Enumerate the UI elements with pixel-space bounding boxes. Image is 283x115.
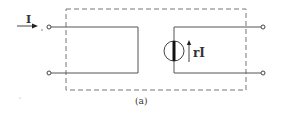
source-label: rI bbox=[193, 46, 205, 60]
figure-caption: (a) bbox=[135, 96, 147, 106]
dashed-enclosure bbox=[66, 9, 246, 90]
terminal-right-bottom bbox=[261, 71, 265, 75]
source-direction-arrow bbox=[187, 40, 191, 62]
current-source-icon bbox=[164, 41, 184, 61]
stray-dot bbox=[19, 97, 20, 98]
terminal-right-top bbox=[261, 25, 265, 29]
output-wire-bottom bbox=[174, 61, 261, 73]
terminal-left-bottom bbox=[47, 71, 51, 75]
output-wire-top bbox=[174, 27, 261, 41]
circuit-diagram: I rI (a) bbox=[0, 0, 283, 115]
terminal-left-top bbox=[47, 25, 51, 29]
input-short-circuit-wire bbox=[51, 27, 138, 73]
stray-dot bbox=[41, 29, 42, 30]
input-current-label: I bbox=[26, 13, 31, 26]
